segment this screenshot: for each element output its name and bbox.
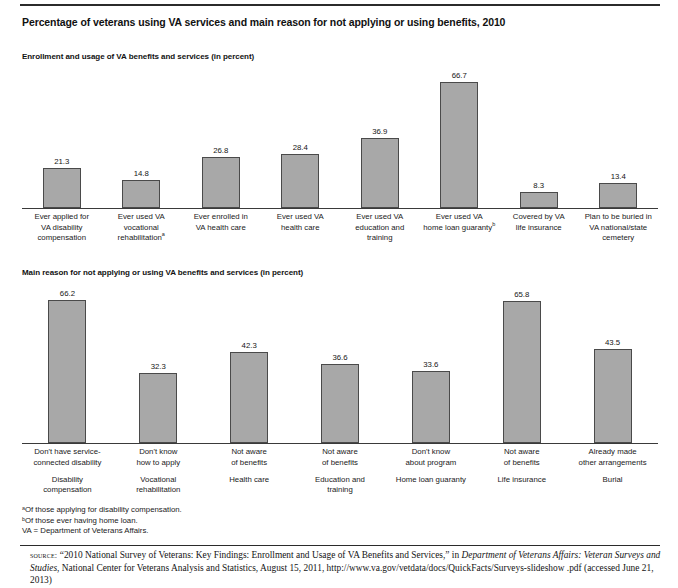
bar-value-label: 13.4 <box>611 172 626 181</box>
category-label: Ever enrolled inVA health care <box>181 212 261 244</box>
category-sublabel-line: compensation <box>43 485 92 494</box>
category-label: Ever used VAhome loan guarantyb <box>420 212 500 244</box>
bar <box>202 157 240 208</box>
bar-value-label: 43.5 <box>605 338 620 347</box>
section-two-heading: Main reason for not applying or using VA… <box>22 268 303 277</box>
bar-value-label: 28.4 <box>293 143 308 152</box>
bar-value-label: 66.2 <box>60 289 75 298</box>
bar <box>43 168 81 208</box>
bar <box>599 183 637 208</box>
footnote-a: ᵃOf those applying for disability compen… <box>22 505 182 516</box>
x-axis-line-two <box>22 443 658 444</box>
bar-value-label: 33.6 <box>423 360 438 369</box>
plot-area-one: 21.314.826.828.436.966.78.313.4 <box>22 62 658 208</box>
category-label-line: VA disability <box>41 223 82 232</box>
category-label-line: education and <box>355 223 404 232</box>
category-label-line: Already made <box>589 447 637 456</box>
category-label-line: Covered by VA <box>513 212 565 221</box>
bar <box>520 192 558 208</box>
category-label-line: connected disability <box>33 458 101 467</box>
bar-slot: 33.6 <box>385 278 476 443</box>
chart-main-reason: 66.232.342.336.633.665.843.5 Don't have … <box>22 278 658 503</box>
bar-value-label: 14.8 <box>134 169 149 178</box>
category-sublabel-line: Education and <box>315 475 365 484</box>
footnotes: ᵃOf those applying for disability compen… <box>22 505 182 537</box>
category-sublabel-line: Home loan guaranty <box>396 475 466 484</box>
bottom-divider <box>20 545 660 546</box>
category-label-line: Not aware <box>231 447 267 456</box>
category-label: Ever applied forVA disabilitycompensatio… <box>22 212 102 244</box>
category-label-line: Don't know <box>139 447 177 456</box>
bar <box>48 300 86 443</box>
category-label-line: rehabilitation <box>118 233 162 242</box>
category-label-line: Ever applied for <box>34 212 89 221</box>
category-label-line: Not aware <box>504 447 540 456</box>
bar-slot: 26.8 <box>181 62 261 208</box>
bar-slot: 65.8 <box>476 278 567 443</box>
footnote-marker: a <box>162 231 165 237</box>
category-label-line: Plan to be buried in <box>585 212 652 221</box>
source-note: source: “2010 National Survey of Veteran… <box>30 549 675 587</box>
bar-group-one: 21.314.826.828.436.966.78.313.4 <box>22 62 658 208</box>
category-label: Already madeother arrangementsBurial <box>567 447 658 496</box>
bar-slot: 66.7 <box>420 62 500 208</box>
category-label-line: Ever used VA <box>277 212 324 221</box>
bar-slot: 43.5 <box>567 278 658 443</box>
bar-slot: 13.4 <box>579 62 659 208</box>
category-label-line: how to apply <box>136 458 180 467</box>
category-sublabel: Disabilitycompensation <box>23 475 112 496</box>
category-sublabel-line: Vocational <box>140 475 176 484</box>
page-title: Percentage of veterans using VA services… <box>22 16 662 28</box>
bar <box>412 371 450 443</box>
bar-slot: 32.3 <box>113 278 204 443</box>
category-label-line: Ever used VA <box>356 212 403 221</box>
bar <box>594 349 632 443</box>
category-label: Covered by VAlife insurance <box>499 212 579 244</box>
bar <box>139 373 177 443</box>
category-label-line: cemetery <box>602 233 634 242</box>
bar <box>440 82 478 208</box>
category-label-line: of benefits <box>504 458 540 467</box>
footnote-marker: b <box>492 221 495 227</box>
bar-value-label: 21.3 <box>54 157 69 166</box>
category-label-line: vocational <box>124 223 159 232</box>
category-label-line: about program <box>406 458 457 467</box>
category-label-line: of benefits <box>231 458 267 467</box>
category-label: Don't have service-connected disabilityD… <box>22 447 113 496</box>
category-label: Don't knowhow to applyVocationalrehabili… <box>113 447 204 496</box>
category-label: Don't knowabout programHome loan guarant… <box>385 447 476 496</box>
category-labels-two: Don't have service-connected disabilityD… <box>22 447 658 496</box>
category-sublabel-line: training <box>327 485 353 494</box>
category-label-line: training <box>367 233 393 242</box>
bar <box>230 352 268 443</box>
bar <box>122 180 160 208</box>
category-label-line: VA national/state <box>589 223 647 232</box>
x-axis-line-one <box>22 208 658 209</box>
category-label-line: VA health care <box>196 223 246 232</box>
bar-slot: 36.9 <box>340 62 420 208</box>
category-label: Not awareof benefitsLife insurance <box>476 447 567 496</box>
category-label-line: Don't have service- <box>34 447 101 456</box>
bar-value-label: 36.6 <box>332 353 347 362</box>
category-label-line: Ever used VA <box>118 212 165 221</box>
category-sublabel-line: Burial <box>603 475 623 484</box>
category-sublabel-line: Disability <box>52 475 83 484</box>
bar-slot: 36.6 <box>295 278 386 443</box>
category-label-line: life insurance <box>516 223 562 232</box>
category-sublabel-line: rehabilitation <box>136 485 180 494</box>
category-label: Not awareof benefitsHealth care <box>204 447 295 496</box>
plot-area-two: 66.232.342.336.633.665.843.5 <box>22 278 658 443</box>
category-sublabel: Home loan guaranty <box>386 475 475 486</box>
category-label-line: health care <box>281 223 320 232</box>
category-label: Ever used VAeducation andtraining <box>340 212 420 244</box>
category-label-line: of benefits <box>322 458 358 467</box>
category-label: Not awareof benefitsEducation andtrainin… <box>295 447 386 496</box>
figure-page: Percentage of veterans using VA services… <box>0 0 678 588</box>
source-text-part-one: “2010 National Survey of Veterans: Key F… <box>57 550 461 560</box>
category-label-line: home loan guaranty <box>423 223 492 232</box>
bar-slot: 66.2 <box>22 278 113 443</box>
footnote-b: ᵇOf those ever having home loan. <box>22 516 182 527</box>
category-sublabel: Life insurance <box>477 475 566 486</box>
footnote-va: VA = Department of Veterans Affairs. <box>22 526 182 537</box>
category-label: Ever used VAhealth care <box>261 212 341 244</box>
